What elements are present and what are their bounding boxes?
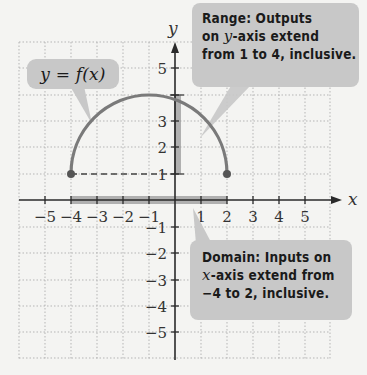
svg-text:2: 2 bbox=[222, 208, 232, 226]
function-label-pointer bbox=[70, 86, 92, 124]
svg-text:−1: −1 bbox=[145, 219, 167, 237]
svg-text:−5: −5 bbox=[34, 208, 56, 226]
svg-text:−2: −2 bbox=[145, 245, 167, 263]
svg-text:4: 4 bbox=[274, 208, 284, 226]
domain-line-3: −4 to 2, inclusive. bbox=[202, 284, 352, 302]
svg-text:−5: −5 bbox=[145, 324, 167, 342]
domain-callout: Domain: Inputs on x-axis extend from −4 … bbox=[190, 240, 352, 320]
range-line-3: from 1 to 4, inclusive. bbox=[202, 45, 359, 63]
range-bar bbox=[175, 95, 181, 174]
svg-text:5: 5 bbox=[300, 208, 310, 226]
svg-text:3: 3 bbox=[248, 208, 258, 226]
svg-text:−4: −4 bbox=[145, 298, 167, 316]
svg-text:−3: −3 bbox=[145, 272, 167, 290]
domain-line-1: Domain: Inputs on bbox=[202, 248, 352, 266]
range-line-2: on y-axis extend bbox=[202, 27, 359, 45]
svg-text:2: 2 bbox=[157, 139, 167, 157]
endpoint-right bbox=[223, 170, 231, 178]
y-axis-arrow bbox=[171, 42, 179, 53]
x-axis-label: x bbox=[348, 189, 358, 209]
domain-line-2: x-axis extend from bbox=[202, 266, 352, 284]
y-axis-label: y bbox=[167, 18, 178, 38]
x-axis-arrow bbox=[331, 196, 342, 204]
range-line-1: Range: Outputs bbox=[202, 9, 359, 27]
range-callout: Range: Outputs on y-axis extend from 1 t… bbox=[192, 3, 359, 87]
svg-text:3: 3 bbox=[157, 113, 167, 131]
svg-text:−2: −2 bbox=[112, 208, 134, 226]
x-tick-labels: −5 −4 −3 −2 −1 1 2 3 4 5 bbox=[34, 208, 310, 226]
svg-text:−4: −4 bbox=[60, 208, 82, 226]
function-label: y = f(x) bbox=[27, 59, 119, 89]
svg-text:−3: −3 bbox=[86, 208, 108, 226]
svg-text:5: 5 bbox=[157, 60, 167, 78]
range-callout-pointer bbox=[200, 84, 252, 138]
svg-text:1: 1 bbox=[157, 166, 167, 184]
endpoint-left bbox=[67, 170, 75, 178]
